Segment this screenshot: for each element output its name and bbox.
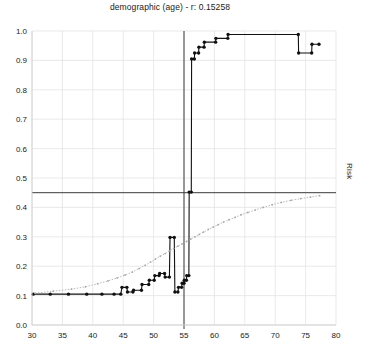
- data-point-observed-step: [214, 37, 217, 40]
- data-point-predicted-risk: [138, 268, 140, 270]
- data-point-predicted-risk: [169, 250, 171, 252]
- data-point-observed-step: [153, 279, 156, 282]
- data-point-observed-step: [193, 51, 196, 54]
- data-point-predicted-risk: [159, 255, 161, 257]
- data-point-predicted-risk: [310, 196, 312, 198]
- data-point-observed-step: [67, 292, 70, 295]
- data-point-observed-step: [168, 236, 171, 239]
- x-tick-label: 70: [271, 331, 280, 340]
- y-tick-label: 0.2: [16, 262, 28, 271]
- y-axis-right-label: Risk: [345, 163, 354, 179]
- data-point-observed-step: [187, 274, 190, 277]
- data-point-predicted-risk: [150, 261, 152, 263]
- data-point-predicted-risk: [97, 283, 99, 285]
- data-point-predicted-risk: [319, 195, 321, 197]
- x-tick-label: 75: [301, 331, 310, 340]
- data-point-observed-step: [310, 51, 313, 54]
- data-point-predicted-risk: [52, 290, 54, 292]
- data-point-predicted-risk: [186, 241, 188, 243]
- y-tick-label: 0.3: [16, 233, 28, 242]
- data-point-predicted-risk: [71, 288, 73, 290]
- data-point-observed-step: [153, 274, 156, 277]
- data-point-predicted-risk: [181, 243, 183, 245]
- y-tick-label: 0.7: [16, 115, 28, 124]
- data-point-observed-step: [297, 51, 300, 54]
- data-point-predicted-risk: [228, 219, 230, 221]
- y-tick-label: 0.8: [16, 86, 28, 95]
- data-point-observed-step: [310, 43, 313, 46]
- data-point-observed-step: [317, 43, 320, 46]
- x-tick-label: 40: [88, 331, 97, 340]
- data-point-observed-step: [140, 283, 143, 286]
- data-point-predicted-risk: [144, 264, 146, 266]
- data-point-predicted-risk: [254, 209, 256, 211]
- data-point-predicted-risk: [207, 229, 209, 231]
- data-point-predicted-risk: [240, 214, 242, 216]
- data-point-predicted-risk: [223, 221, 225, 223]
- data-point-observed-step: [297, 33, 300, 36]
- bottom-caption: [2, 350, 242, 359]
- data-point-observed-step: [147, 283, 150, 286]
- data-point-predicted-risk: [131, 271, 133, 273]
- data-point-predicted-risk: [116, 277, 118, 279]
- data-point-predicted-risk: [247, 212, 249, 214]
- data-point-predicted-risk: [107, 280, 109, 282]
- chart-plot-area: 30354045505560657075800.00.10.20.30.40.5…: [0, 0, 369, 360]
- data-point-predicted-risk: [290, 199, 292, 201]
- data-point-observed-step: [203, 40, 206, 43]
- data-point-predicted-risk: [173, 248, 175, 250]
- data-point-observed-step: [197, 45, 200, 48]
- data-point-observed-step: [49, 292, 52, 295]
- data-point-observed-step: [140, 289, 143, 292]
- x-tick-label: 30: [28, 331, 37, 340]
- data-point-observed-step: [176, 290, 179, 293]
- data-point-predicted-risk: [280, 202, 282, 204]
- data-point-observed-step: [226, 33, 229, 36]
- data-point-observed-step: [148, 279, 151, 282]
- x-tick-label: 35: [58, 331, 67, 340]
- data-point-predicted-risk: [190, 238, 192, 240]
- x-tick-label: 50: [149, 331, 158, 340]
- x-tick-label: 80: [332, 331, 341, 340]
- x-tick-label: 60: [210, 331, 219, 340]
- data-point-observed-step: [177, 286, 180, 289]
- x-tick-label: 55: [180, 331, 189, 340]
- data-point-observed-step: [119, 292, 122, 295]
- data-point-predicted-risk: [198, 234, 200, 236]
- y-tick-label: 0.4: [16, 203, 28, 212]
- data-point-predicted-risk: [212, 226, 214, 228]
- data-point-predicted-risk: [85, 286, 87, 288]
- data-point-observed-step: [193, 57, 196, 60]
- data-point-observed-step: [226, 37, 229, 40]
- data-point-observed-step: [120, 286, 123, 289]
- chart-page: demographic (age) - r: 0.15258 303540455…: [0, 0, 369, 360]
- data-point-predicted-risk: [155, 258, 157, 260]
- y-tick-label: 0.0: [16, 321, 28, 330]
- data-point-predicted-risk: [164, 253, 166, 255]
- data-point-predicted-risk: [194, 236, 196, 238]
- y-tick-label: 0.9: [16, 56, 28, 65]
- data-point-observed-step: [100, 292, 103, 295]
- data-point-observed-step: [126, 290, 129, 293]
- data-point-observed-step: [185, 279, 188, 282]
- data-point-observed-step: [197, 51, 200, 54]
- y-tick-label: 1.0: [16, 27, 28, 36]
- data-point-observed-step: [173, 290, 176, 293]
- data-point-observed-step: [132, 289, 135, 292]
- data-point-observed-step: [182, 282, 185, 285]
- data-point-observed-step: [112, 292, 115, 295]
- data-point-predicted-risk: [177, 245, 179, 247]
- data-point-predicted-risk: [217, 224, 219, 226]
- data-point-predicted-risk: [271, 204, 273, 206]
- data-point-observed-step: [190, 190, 193, 193]
- data-point-observed-step: [163, 275, 166, 278]
- data-point-observed-step: [180, 286, 183, 289]
- data-point-observed-step: [202, 45, 205, 48]
- data-point-predicted-risk: [124, 274, 126, 276]
- y-tick-label: 0.6: [16, 145, 28, 154]
- data-point-predicted-risk: [262, 207, 264, 209]
- data-point-predicted-risk: [34, 292, 36, 294]
- x-tick-label: 65: [240, 331, 249, 340]
- data-point-observed-step: [158, 272, 161, 275]
- data-point-observed-step: [163, 272, 166, 275]
